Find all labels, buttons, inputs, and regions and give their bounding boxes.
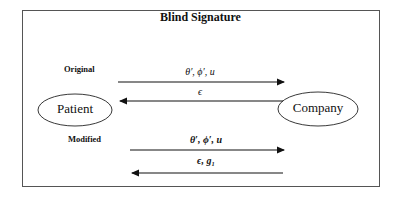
section-label-original: Original: [64, 64, 95, 74]
diagram-canvas: [0, 0, 401, 198]
patient-node-label: Patient: [38, 101, 112, 117]
modified-return-message: ϵ, g₁: [126, 155, 286, 166]
original-forward-message: θ′, ϕ′, u: [120, 66, 280, 77]
modified-forward-message: θ′, ϕ′, u: [126, 134, 286, 145]
original-return-message: ϵ: [120, 86, 280, 97]
section-label-modified: Modified: [68, 134, 101, 144]
company-node-label: Company: [278, 100, 358, 116]
